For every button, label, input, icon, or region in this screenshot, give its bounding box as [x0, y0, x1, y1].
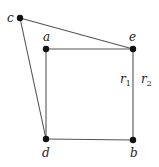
- annotation-r2: r2: [141, 72, 152, 88]
- node-label-e: e: [129, 30, 136, 44]
- node-label-b: b: [130, 146, 138, 160]
- edge-c-e: [20, 18, 133, 49]
- edge-d-b: [46, 139, 133, 140]
- node-d: [43, 136, 49, 142]
- graph-diagram: caedb r1 r2: [0, 0, 159, 167]
- node-b: [130, 137, 136, 143]
- node-e: [130, 46, 136, 52]
- node-c: [17, 15, 23, 21]
- node-a: [43, 46, 49, 52]
- node-label-a: a: [43, 30, 50, 44]
- node-label-c: c: [7, 11, 14, 25]
- annotation-r1: r1: [120, 72, 131, 88]
- node-label-d: d: [42, 146, 50, 160]
